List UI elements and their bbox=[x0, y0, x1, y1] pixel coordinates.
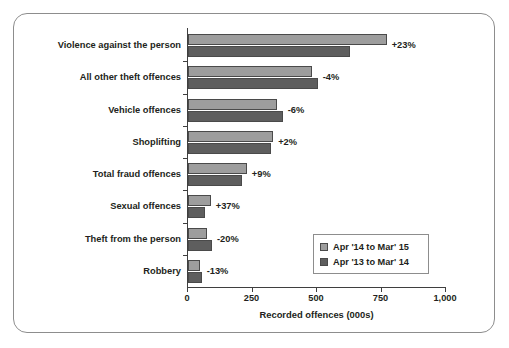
x-axis-tick bbox=[445, 287, 446, 292]
bar-series-0 bbox=[188, 260, 200, 271]
y-axis-tick bbox=[183, 223, 188, 224]
y-axis-tick bbox=[183, 126, 188, 127]
category-label: Robbery bbox=[143, 266, 181, 276]
bar-pair: +9% bbox=[187, 162, 445, 186]
percent-change-label: -6% bbox=[288, 105, 305, 115]
bar-series-1 bbox=[188, 111, 283, 122]
percent-change-label: +9% bbox=[252, 169, 271, 179]
category-label: Sexual offences bbox=[110, 201, 181, 211]
x-axis-tick bbox=[316, 287, 317, 292]
x-axis-tick-label: 250 bbox=[244, 293, 259, 303]
y-axis-tick bbox=[183, 255, 188, 256]
bar-series-1 bbox=[188, 175, 242, 186]
bar-series-1 bbox=[188, 240, 212, 251]
bar-series-0 bbox=[188, 34, 387, 45]
chart-legend: Apr '14 to Mar' 15 Apr '13 to Mar' 14 bbox=[313, 234, 429, 274]
bar-series-0 bbox=[188, 228, 207, 239]
bar-group: Shoplifting+2% bbox=[187, 126, 445, 158]
bar-group: Vehicle offences-6% bbox=[187, 94, 445, 126]
bar-series-1 bbox=[188, 78, 318, 89]
category-label: All other theft offences bbox=[80, 72, 181, 82]
bar-series-1 bbox=[188, 272, 202, 283]
category-label: Violence against the person bbox=[58, 40, 181, 50]
category-label: Theft from the person bbox=[85, 234, 181, 244]
x-axis-tick bbox=[381, 287, 382, 292]
percent-change-label: -20% bbox=[217, 234, 239, 244]
bar-group: Violence against the person+23% bbox=[187, 29, 445, 61]
y-axis-tick bbox=[183, 190, 188, 191]
bar-pair: +37% bbox=[187, 194, 445, 218]
bar-series-0 bbox=[188, 66, 312, 77]
category-label: Shoplifting bbox=[132, 137, 181, 147]
x-axis-tick bbox=[252, 287, 253, 292]
bar-group: Sexual offences+37% bbox=[187, 190, 445, 222]
bar-series-0 bbox=[188, 131, 273, 142]
x-axis-tick-label: 0 bbox=[184, 293, 189, 303]
percent-change-label: -13% bbox=[207, 266, 229, 276]
y-axis-tick bbox=[183, 94, 188, 95]
bar-series-0 bbox=[188, 163, 247, 174]
percent-change-label: +37% bbox=[216, 201, 240, 211]
bar-pair: -4% bbox=[187, 65, 445, 89]
bar-series-0 bbox=[188, 195, 211, 206]
legend-label-1: Apr '13 to Mar' 14 bbox=[333, 257, 409, 267]
bar-pair: -6% bbox=[187, 98, 445, 122]
y-axis-tick bbox=[183, 61, 188, 62]
category-label: Total fraud offences bbox=[93, 169, 181, 179]
category-label: Vehicle offences bbox=[108, 105, 181, 115]
legend-label-0: Apr '14 to Mar' 15 bbox=[333, 242, 409, 252]
legend-item-1: Apr '13 to Mar' 14 bbox=[320, 254, 422, 269]
x-axis-tick bbox=[187, 287, 188, 292]
x-axis-title: Recorded offences (000s) bbox=[187, 309, 446, 320]
x-axis-tick-label: 1,000 bbox=[434, 293, 457, 303]
x-axis-tick-label: 500 bbox=[308, 293, 323, 303]
legend-swatch-icon-0 bbox=[320, 243, 328, 251]
bar-pair: +23% bbox=[187, 33, 445, 57]
bar-group: Total fraud offences+9% bbox=[187, 158, 445, 190]
x-axis-tick-label: 750 bbox=[373, 293, 388, 303]
percent-change-label: +2% bbox=[278, 137, 297, 147]
percent-change-label: -4% bbox=[323, 72, 340, 82]
chart-figure: Violence against the person+23%All other… bbox=[0, 0, 509, 348]
percent-change-label: +23% bbox=[392, 40, 416, 50]
bar-series-1 bbox=[188, 46, 350, 57]
bar-series-1 bbox=[188, 207, 205, 218]
bar-series-1 bbox=[188, 143, 271, 154]
bar-pair: +2% bbox=[187, 130, 445, 154]
bar-series-0 bbox=[188, 99, 277, 110]
bar-group: All other theft offences-4% bbox=[187, 61, 445, 93]
legend-swatch-icon-1 bbox=[320, 258, 328, 266]
legend-item-0: Apr '14 to Mar' 15 bbox=[320, 239, 422, 254]
y-axis-tick bbox=[183, 158, 188, 159]
